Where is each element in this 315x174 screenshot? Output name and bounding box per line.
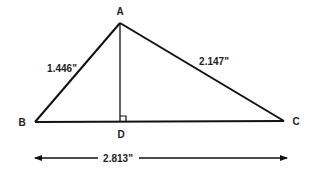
vertex-label-d: D (117, 129, 124, 140)
side-ac (120, 23, 284, 121)
vertex-label-c: C (292, 116, 299, 127)
triangle-diagram: A B C D 1.446" 2.147" 2.813" (0, 0, 315, 174)
side-bc (35, 121, 284, 122)
measure-ac: 2.147" (199, 56, 229, 67)
measure-ab: 1.446" (47, 63, 77, 74)
vertex-label-b: B (18, 117, 25, 128)
vertex-label-a: A (116, 6, 123, 17)
diagram-svg: A B C D 1.446" 2.147" 2.813" (0, 0, 315, 174)
measure-bc: 2.813" (103, 153, 133, 164)
